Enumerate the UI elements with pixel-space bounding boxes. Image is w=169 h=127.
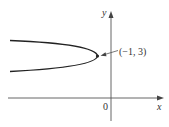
vertex-point [96, 54, 99, 57]
y-axis [109, 11, 114, 121]
vertex-label: (−1, 3) [119, 46, 146, 58]
graph-canvas: (−1, 3) y x 0 [0, 0, 169, 127]
x-axis-arrow-icon [157, 96, 164, 101]
parabola-curve [10, 41, 98, 72]
vertex-pointer-arrow [101, 51, 119, 57]
y-axis-label: y [101, 7, 107, 18]
y-axis-arrow-icon [109, 11, 114, 18]
x-axis [8, 96, 164, 101]
pointer-arrowhead-icon [101, 52, 107, 56]
x-axis-label: x [156, 101, 162, 112]
parabola-figure: (−1, 3) y x 0 [0, 0, 169, 127]
origin-label: 0 [103, 101, 108, 112]
